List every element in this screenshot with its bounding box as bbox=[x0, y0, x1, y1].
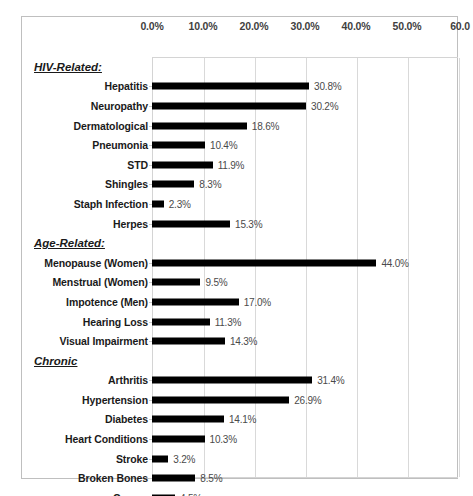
x-tick-label: 30.0% bbox=[291, 20, 320, 32]
category-label: Stroke bbox=[116, 453, 152, 465]
bar-row: Impotence (Men)17.0% bbox=[0, 292, 473, 312]
bar-row: Neuropathy30.2% bbox=[0, 96, 473, 116]
category-label: Broken Bones bbox=[78, 472, 152, 484]
bar-row: Staph Infection2.3% bbox=[0, 194, 473, 214]
bar bbox=[152, 83, 309, 90]
section-label: HIV-Related: bbox=[34, 61, 102, 73]
bar-row: Arthritis31.4% bbox=[0, 371, 473, 391]
bar bbox=[152, 279, 200, 286]
bar-row: Shingles8.3% bbox=[0, 175, 473, 195]
bar-row: Hepatitis30.8% bbox=[0, 77, 473, 97]
bar-row: Hypertension26.9% bbox=[0, 390, 473, 410]
category-label: Hepatitis bbox=[105, 80, 152, 92]
bar-row: Dermatological18.6% bbox=[0, 116, 473, 136]
bar-value-label: 31.4% bbox=[317, 375, 344, 386]
section-header-row: Age-Related: bbox=[0, 233, 473, 253]
category-label: Arthritis bbox=[108, 374, 152, 386]
bar-row: Herpes15.3% bbox=[0, 214, 473, 234]
section-header-row: HIV-Related: bbox=[0, 57, 473, 77]
x-tick-label: 0.0% bbox=[140, 20, 163, 32]
bar bbox=[152, 377, 312, 384]
bar bbox=[152, 259, 376, 266]
bar-row: Hearing Loss11.3% bbox=[0, 312, 473, 332]
bar-value-label: 44.0% bbox=[381, 257, 408, 268]
bar bbox=[152, 318, 210, 325]
bar-value-label: 9.5% bbox=[205, 277, 227, 288]
bar-row: Menopause (Women)44.0% bbox=[0, 253, 473, 273]
bar-value-label: 8.3% bbox=[199, 179, 221, 190]
bar bbox=[152, 436, 205, 443]
category-label: Neuropathy bbox=[91, 100, 152, 112]
bar bbox=[152, 396, 289, 403]
x-tick-label: 10.0% bbox=[189, 20, 218, 32]
bar-value-label: 4.5% bbox=[180, 492, 202, 496]
bar bbox=[152, 220, 230, 227]
section-label: Age-Related: bbox=[34, 237, 105, 249]
category-label: Cancer bbox=[113, 492, 152, 496]
category-label: Staph Infection bbox=[74, 198, 152, 210]
category-label: Pneumonia bbox=[92, 139, 152, 151]
category-label: Diabetes bbox=[105, 413, 152, 425]
bar-value-label: 10.3% bbox=[210, 434, 237, 445]
chart-container: 0.0%10.0%20.0%30.0%40.0%50.0%60.0 HIV-Re… bbox=[0, 0, 473, 496]
bar-value-label: 30.2% bbox=[311, 100, 338, 111]
bar-row: Diabetes14.1% bbox=[0, 410, 473, 430]
chart-rows: HIV-Related:Hepatitis30.8%Neuropathy30.2… bbox=[0, 57, 473, 496]
bar-row: Stroke3.2% bbox=[0, 449, 473, 469]
category-label: Menopause (Women) bbox=[44, 257, 152, 269]
section-label: Chronic bbox=[34, 355, 77, 367]
category-label: Hypertension bbox=[82, 394, 152, 406]
bar bbox=[152, 416, 224, 423]
bar-row: Menstrual (Women)9.5% bbox=[0, 273, 473, 293]
category-label: Dermatological bbox=[74, 120, 152, 132]
bar-value-label: 8.5% bbox=[200, 473, 222, 484]
bar bbox=[152, 475, 195, 482]
bar-value-label: 17.0% bbox=[244, 296, 271, 307]
bar-value-label: 10.4% bbox=[210, 140, 237, 151]
category-label: Herpes bbox=[113, 218, 152, 230]
category-label: Impotence (Men) bbox=[66, 296, 152, 308]
bar-value-label: 15.3% bbox=[235, 218, 262, 229]
bar-value-label: 30.8% bbox=[314, 81, 341, 92]
bar bbox=[152, 142, 205, 149]
x-axis-tick-labels: 0.0%10.0%20.0%30.0%40.0%50.0%60.0 bbox=[0, 20, 473, 36]
category-label: Hearing Loss bbox=[83, 316, 152, 328]
x-tick-label: 60.0 bbox=[450, 20, 470, 32]
bar bbox=[152, 200, 164, 207]
bar-row: Visual Impairment14.3% bbox=[0, 331, 473, 351]
bar-value-label: 11.9% bbox=[218, 159, 245, 170]
bar-value-label: 11.3% bbox=[215, 316, 242, 327]
bar bbox=[152, 338, 225, 345]
category-label: Visual Impairment bbox=[59, 335, 152, 347]
bar-value-label: 14.1% bbox=[229, 414, 256, 425]
x-tick-label: 20.0% bbox=[240, 20, 269, 32]
bar-row: Heart Conditions10.3% bbox=[0, 429, 473, 449]
category-label: Heart Conditions bbox=[65, 433, 152, 445]
category-label: Menstrual (Women) bbox=[52, 276, 152, 288]
bar-value-label: 3.2% bbox=[173, 453, 195, 464]
bar-value-label: 18.6% bbox=[252, 120, 279, 131]
bar bbox=[152, 122, 247, 129]
category-label: Shingles bbox=[105, 178, 152, 190]
x-tick-label: 50.0% bbox=[393, 20, 422, 32]
bar bbox=[152, 455, 168, 462]
bar-value-label: 14.3% bbox=[230, 336, 257, 347]
bar bbox=[152, 298, 239, 305]
bar bbox=[152, 161, 213, 168]
section-header-row: Chronic bbox=[0, 351, 473, 371]
x-tick-label: 40.0% bbox=[342, 20, 371, 32]
bar bbox=[152, 181, 194, 188]
bar-row: Broken Bones8.5% bbox=[0, 468, 473, 488]
bar bbox=[152, 102, 306, 109]
bar-row: Pneumonia10.4% bbox=[0, 135, 473, 155]
bar-row: STD11.9% bbox=[0, 155, 473, 175]
bar-value-label: 26.9% bbox=[294, 394, 321, 405]
bar-row: Cancer4.5% bbox=[0, 488, 473, 496]
bar-value-label: 2.3% bbox=[169, 198, 191, 209]
